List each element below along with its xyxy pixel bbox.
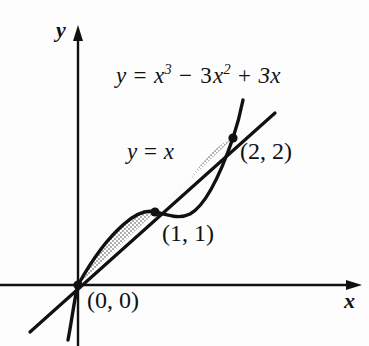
curve-equation-term1-base: x <box>154 63 165 88</box>
line-equation-label: y = x <box>127 140 174 163</box>
point-marker-two-two <box>228 133 237 142</box>
point-label-origin: (0, 0) <box>87 288 139 312</box>
figure-container: y = x3 − 3x2 + 3x y = x (0, 0) (1, 1) (2… <box>0 0 369 346</box>
line-equation-equals: = <box>143 139 158 164</box>
point-marker-origin <box>73 280 82 289</box>
point-marker-one-one <box>150 207 159 216</box>
y-axis-arrow-icon <box>73 25 83 41</box>
curve-equation-term2-base: x <box>213 63 224 88</box>
y-axis-label: y <box>56 19 66 41</box>
curve-equation-label: y = x3 − 3x2 + 3x <box>116 62 281 87</box>
curve-equation-term3: 3x <box>258 63 280 88</box>
curve-equation-plus: + <box>237 63 252 88</box>
curve-equation-minus: − <box>178 63 193 88</box>
line-equation-rhs: x <box>164 139 174 164</box>
shaded-region-lower-lens <box>78 211 155 285</box>
line-equation-lhs: y <box>127 139 137 164</box>
curve-equation-term2-coefficient: 3 <box>199 63 213 88</box>
x-axis-label: x <box>344 290 355 312</box>
curve-equation-term1-exponent: 3 <box>164 61 171 77</box>
point-label-one-one: (1, 1) <box>162 221 214 245</box>
curve-equation-lhs: y <box>116 63 127 88</box>
curve-equation-equals: = <box>133 63 148 88</box>
curve-equation-term2-exponent: 2 <box>224 61 231 77</box>
point-label-two-two: (2, 2) <box>240 139 292 163</box>
plot-canvas <box>0 0 369 346</box>
